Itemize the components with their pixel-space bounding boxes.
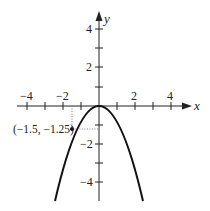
x-tick-label-2: 2 <box>131 89 137 103</box>
x-tick-label-neg4: −4 <box>20 89 33 103</box>
x-axis-arrow-icon <box>182 103 192 110</box>
x-axis-label: x <box>193 98 200 113</box>
y-axis-label: y <box>102 11 110 26</box>
x-tick-label-4: 4 <box>167 89 173 103</box>
parabola-graph: x y −4 −2 2 4 4 2 −2 −4 (−1.5, −1.25) <box>0 0 210 211</box>
point-label: (−1.5, −1.25) <box>13 123 74 136</box>
y-axis-arrow-icon <box>96 11 103 21</box>
y-tick-label-neg4: −4 <box>80 175 93 189</box>
y-tick-label-4: 4 <box>86 22 92 36</box>
y-tick-label-2: 2 <box>86 60 92 74</box>
x-tick-label-neg2: −2 <box>56 89 69 103</box>
y-tick-label-neg2: −2 <box>80 137 93 151</box>
